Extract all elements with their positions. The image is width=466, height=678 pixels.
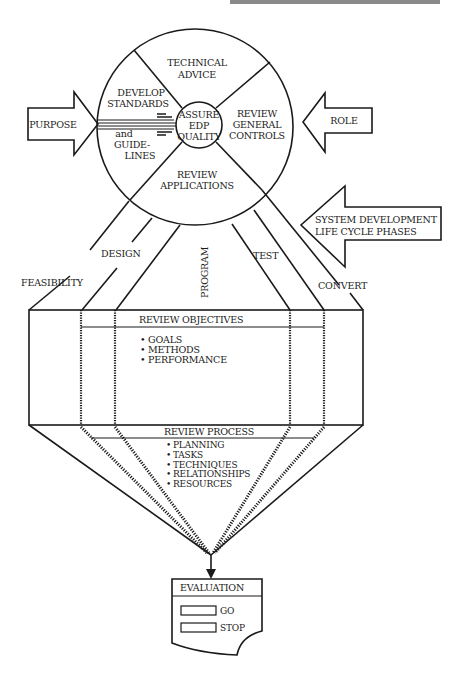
- phase-convert: CONVERT: [318, 280, 368, 291]
- segment-lines: LINES: [125, 150, 156, 161]
- process-bullet: •: [166, 450, 171, 460]
- evaluation-document: EVALUATION GO STOP: [172, 579, 262, 655]
- phase-program: PROGRAM: [199, 246, 210, 298]
- quality-circle: TECHNICAL ADVICE DEVELOP STANDARDS and G…: [97, 29, 293, 225]
- role-arrow: ROLE: [303, 93, 372, 152]
- down-arrow: [206, 555, 216, 579]
- funnel-hatch: [215, 427, 324, 553]
- center-label-l2: EDP: [189, 120, 210, 131]
- segment-review-general-controls-l1: REVIEW: [237, 108, 278, 119]
- lane-line-feasibility-upper: [90, 201, 129, 250]
- go-checkbox[interactable]: [181, 606, 216, 615]
- process-bullet: •: [166, 479, 171, 489]
- segment-review-general-controls-l3: CONTROLS: [229, 130, 285, 141]
- purpose-label: PURPOSE: [29, 119, 77, 130]
- lane-line-test-left: [232, 224, 290, 310]
- edp-quality-diagram: TECHNICAL ADVICE DEVELOP STANDARDS and G…: [0, 0, 466, 678]
- review-process-funnel: REVIEW PROCESS • PLANNING • TASKS • TECH…: [29, 425, 363, 555]
- center-label-l3: QUALITY: [177, 131, 222, 142]
- funnel-hatch: [213, 427, 290, 553]
- objective-item: •: [140, 354, 145, 365]
- role-label: ROLE: [330, 115, 358, 126]
- go-label: GO: [220, 606, 234, 616]
- lane-line-design-lower: [82, 268, 117, 310]
- phase-feasibility: FEASIBILITY: [21, 277, 84, 288]
- lane-line-convert-lower: [350, 293, 363, 310]
- segment-develop-standards-l1: DEVELOP: [117, 87, 165, 98]
- purpose-arrow: PURPOSE: [28, 92, 98, 155]
- review-objectives-box: REVIEW OBJECTIVES • GOALS • METHODS • PE…: [29, 310, 363, 425]
- process-item: RELATIONSHIPS: [173, 469, 250, 479]
- sdlc-label-l2: LIFE CYCLE PHASES: [315, 226, 417, 237]
- segment-guide: GUIDE-: [114, 139, 150, 150]
- process-item: PLANNING: [173, 440, 224, 450]
- stop-label: STOP: [220, 623, 245, 633]
- evaluation-title: EVALUATION: [180, 582, 244, 593]
- objective-item: PERFORMANCE: [148, 354, 227, 365]
- spoke-upper-right: [216, 62, 270, 108]
- phase-test: TEST: [253, 250, 279, 261]
- sdlc-arrow: SYSTEM DEVELOPMENT LIFE CYCLE PHASES: [301, 186, 441, 267]
- phase-lanes: FEASIBILITY DESIGN PROGRAM TEST CONVERT: [21, 190, 368, 310]
- segment-technical-advice-l1: TECHNICAL: [167, 57, 227, 68]
- review-objectives-title: REVIEW OBJECTIVES: [139, 314, 243, 325]
- process-bullet: •: [166, 469, 171, 479]
- segment-review-general-controls-l2: GENERAL: [233, 119, 283, 130]
- funnel-right: [211, 425, 363, 555]
- lane-line-design-upper: [132, 218, 152, 242]
- process-bullet: •: [166, 440, 171, 450]
- segment-review-applications-l2: APPLICATIONS: [159, 180, 234, 191]
- sdlc-label-l1: SYSTEM DEVELOPMENT: [315, 214, 438, 225]
- phase-design: DESIGN: [101, 248, 141, 259]
- segment-and: and: [115, 128, 132, 139]
- center-label-l1: ASSURE: [178, 109, 220, 120]
- segment-technical-advice-l2: ADVICE: [177, 69, 216, 80]
- stop-checkbox[interactable]: [181, 623, 216, 632]
- review-process-title: REVIEW PROCESS: [164, 426, 254, 437]
- running-head: [230, 0, 440, 4]
- lane-line-program-left: [116, 225, 180, 310]
- segment-develop-standards-l2: STANDARDS: [107, 98, 168, 109]
- process-item: RESOURCES: [173, 479, 232, 489]
- process-item: TASKS: [173, 450, 203, 460]
- purpose-shaft: [98, 114, 176, 135]
- segment-review-applications-l1: REVIEW: [177, 169, 218, 180]
